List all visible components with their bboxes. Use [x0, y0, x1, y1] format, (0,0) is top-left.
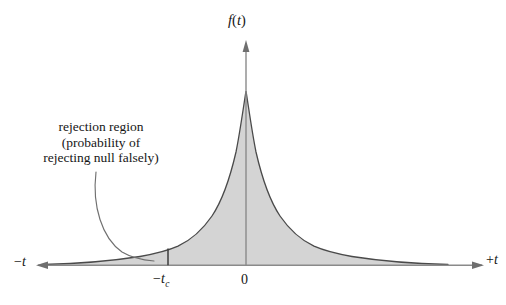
- x-axis-right-label: +t: [486, 252, 498, 268]
- y-axis-label-close-paren: ): [241, 12, 246, 28]
- x-axis-left-sign: −: [14, 254, 22, 269]
- annotation-line-2: (probability of: [18, 135, 184, 151]
- y-axis-arrowhead: [243, 40, 250, 52]
- origin-label: 0: [241, 272, 248, 288]
- annotation-line-1: rejection region: [18, 119, 184, 135]
- x-axis-right-arrowhead: [472, 262, 484, 269]
- y-axis-label: f(t): [228, 12, 246, 29]
- x-axis-left-arrowhead: [36, 262, 48, 269]
- critical-value-subscript: c: [165, 279, 169, 289]
- annotation-leader-line: [95, 172, 154, 261]
- annotation-line-3: rejecting null falsely): [18, 150, 184, 166]
- x-axis-right-variable: t: [494, 252, 498, 267]
- x-axis-left-variable: t: [22, 254, 26, 269]
- critical-value-label: −tc: [153, 271, 169, 289]
- x-axis-right-sign: +: [486, 252, 494, 267]
- rejection-region-annotation: rejection region (probability of rejecti…: [18, 119, 184, 166]
- x-axis-left-label: −t: [14, 254, 26, 270]
- critical-value-sign: −: [153, 271, 161, 286]
